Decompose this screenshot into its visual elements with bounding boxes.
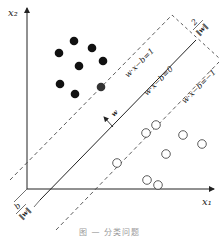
y-axis-label: x₂ [8, 7, 18, 18]
decision-boundary-label: w·x−b=0 [142, 65, 175, 98]
hollow-data-point [154, 181, 163, 190]
hollow-data-point [198, 140, 207, 149]
figure-caption: 图 — 分类问题 [0, 226, 219, 237]
decision-boundary-line [40, 40, 196, 200]
positive-margin-label: w·x−b=1 [123, 47, 156, 80]
svm-diagram: x₂ x₁ w·x−b=1 w·x−b=0 w·x−b=−1 2 ‖w‖ w b… [0, 0, 219, 240]
filled-data-point [88, 44, 97, 53]
normal-vector-arrow [104, 117, 113, 127]
filled-data-point [99, 57, 108, 66]
filled-data-point [55, 49, 64, 58]
filled-data-point [71, 90, 80, 99]
negative-class-points [113, 121, 207, 190]
hollow-data-point [143, 176, 152, 185]
normal-vector-label: w [109, 107, 120, 118]
hollow-data-point [142, 129, 151, 138]
filled-data-point [70, 37, 79, 46]
offset-bracket-2 [34, 200, 40, 207]
positive-class-points [55, 37, 108, 99]
filled-data-point [75, 62, 84, 71]
x-axis-label: x₁ [202, 196, 212, 207]
negative-margin-label: w·x−b=−1 [180, 68, 218, 106]
hollow-data-point [162, 150, 171, 159]
filled-data-point [97, 83, 106, 92]
hollow-data-point [113, 159, 122, 168]
hollow-data-point [152, 121, 161, 130]
offset-bracket [14, 189, 27, 202]
hollow-data-point [179, 131, 188, 140]
filled-data-point [56, 80, 65, 89]
